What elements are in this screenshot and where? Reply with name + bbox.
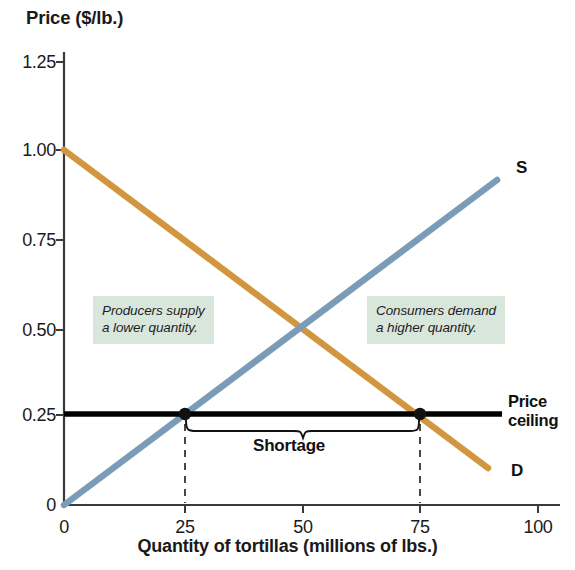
y-tick-1.00: 1.00 [0, 141, 56, 159]
x-tick-100: 100 [503, 518, 573, 536]
y-tick-0: 0 [0, 496, 56, 514]
shortage-label: Shortage [253, 436, 325, 456]
callout-consumers-demand: Consumers demand a higher quantity. [367, 296, 505, 344]
y-tick-0.25: 0.25 [0, 406, 56, 424]
demand-curve-label: D [511, 461, 523, 481]
marker-quantity-supplied [179, 408, 191, 420]
y-axis-title: Price ($/lb.) [26, 7, 123, 29]
supply-demand-chart: Price ($/lb.) Quantity of tortillas (mil… [0, 0, 575, 570]
x-tick-25: 25 [150, 518, 220, 536]
y-tick-1.25: 1.25 [0, 53, 56, 71]
x-axis-ticks [185, 505, 538, 513]
x-axis-title: Quantity of tortillas (millions of lbs.) [0, 536, 575, 557]
chart-plot-area [0, 0, 575, 570]
supply-curve-label: S [516, 158, 527, 178]
callout-producers-supply: Producers supply a lower quantity. [93, 296, 214, 344]
price-ceiling-label: Price ceiling [508, 392, 558, 430]
y-axis-ticks [56, 62, 64, 415]
y-tick-0.50: 0.50 [0, 321, 56, 339]
x-tick-75: 75 [385, 518, 455, 536]
marker-quantity-demanded [414, 408, 426, 420]
y-tick-0.75: 0.75 [0, 231, 56, 249]
x-tick-50: 50 [268, 518, 338, 536]
x-tick-0: 0 [29, 518, 99, 536]
